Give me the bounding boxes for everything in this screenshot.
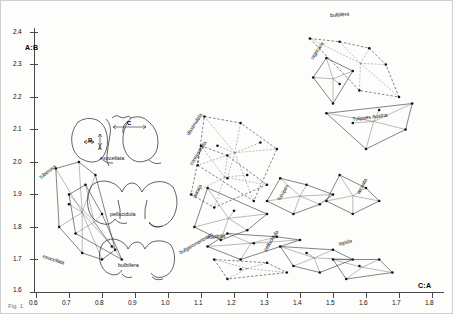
data-point	[292, 265, 295, 268]
data-point	[220, 239, 223, 242]
series-bulgaromanorum	[213, 258, 288, 280]
data-point	[226, 154, 229, 157]
series-spoke	[94, 214, 102, 222]
data-point	[206, 245, 209, 248]
series-tuberosa	[55, 161, 117, 261]
series-spoke	[194, 218, 228, 227]
data-point	[325, 57, 328, 60]
data-point	[391, 271, 394, 274]
data-point	[239, 258, 242, 261]
series-spoke	[353, 121, 374, 123]
data-point	[101, 213, 104, 216]
data-point	[378, 200, 381, 203]
data-point	[332, 102, 335, 105]
data-point	[253, 242, 256, 245]
data-point	[358, 89, 361, 92]
data-point	[319, 271, 322, 274]
data-point	[266, 200, 269, 203]
data-point	[309, 37, 312, 40]
species-polygon	[310, 39, 399, 98]
data-point	[233, 210, 236, 213]
data-point	[345, 278, 348, 281]
data-point	[78, 161, 81, 164]
inset-label-bulbifera: bulbifera	[118, 262, 139, 268]
data-point	[332, 258, 335, 261]
series-spoke	[326, 58, 333, 79]
data-point	[312, 76, 315, 79]
data-point	[338, 83, 341, 86]
species-polygon	[56, 162, 115, 260]
series-spoke	[229, 214, 268, 218]
series-spoke	[366, 121, 374, 149]
data-point	[411, 102, 414, 105]
series-spoke	[201, 146, 225, 177]
series-nigricans	[312, 57, 354, 105]
series-spoke	[247, 263, 267, 269]
species-polygon	[333, 260, 392, 280]
data-point	[239, 268, 242, 271]
series-spoke	[229, 211, 235, 219]
data-point	[332, 193, 335, 196]
data-point	[325, 112, 328, 115]
data-point	[68, 203, 71, 206]
data-point	[279, 177, 282, 180]
data-point	[259, 141, 262, 144]
data-point	[111, 245, 114, 248]
data-point	[216, 145, 219, 148]
data-point	[266, 213, 269, 216]
species-polygon	[326, 104, 412, 150]
data-point	[332, 249, 335, 252]
dim-label-b: B	[88, 137, 92, 143]
data-point	[213, 206, 216, 209]
series-spoke	[353, 196, 379, 201]
scatter-plot-svg	[0, 0, 453, 314]
series-spoke	[300, 196, 320, 204]
series-spoke	[293, 258, 314, 266]
series-spoke	[247, 269, 287, 273]
data-point	[385, 63, 388, 66]
series-spoke	[204, 117, 235, 153]
data-point	[338, 40, 341, 43]
data-point	[404, 128, 407, 131]
series-spoke	[208, 243, 251, 246]
inset-label-exocellata: exocellata	[100, 155, 124, 161]
series-spoke	[307, 253, 315, 258]
inset-label-pellucidula: pellucidula	[110, 211, 135, 217]
data-point	[58, 226, 61, 229]
data-point	[203, 115, 206, 118]
data-point	[68, 193, 71, 196]
data-point	[358, 265, 361, 268]
data-point	[239, 122, 242, 125]
series-spoke	[82, 175, 95, 212]
data-point	[206, 187, 209, 190]
data-point	[352, 70, 355, 73]
data-point	[101, 258, 104, 261]
series-spoke	[229, 218, 248, 230]
data-point	[276, 148, 279, 151]
series-spoke	[361, 63, 400, 97]
data-point	[305, 252, 308, 255]
dim-label-a: A	[98, 145, 102, 151]
data-point	[378, 258, 381, 261]
data-point	[299, 239, 302, 242]
chart-canvas: 2.4 2.3 2.2 2.1 2.0 1.9 1.8 1.7 1.6 A:B …	[0, 0, 453, 314]
series-spoke	[313, 78, 333, 79]
data-point	[84, 184, 87, 187]
data-point	[352, 122, 355, 125]
series-aurata	[193, 187, 268, 242]
series-spoke	[362, 260, 379, 268]
data-point	[378, 109, 381, 112]
data-point	[193, 226, 196, 229]
data-point	[94, 174, 97, 177]
series-spoke	[374, 121, 406, 129]
series-spoke	[361, 63, 386, 64]
series-spoke	[235, 123, 241, 153]
series-spoke	[359, 63, 360, 90]
data-point	[365, 187, 368, 190]
series-spoke	[59, 212, 82, 227]
species-polygon	[198, 117, 277, 202]
data-point	[74, 232, 77, 235]
series-spoke	[314, 250, 333, 258]
data-point	[325, 200, 328, 203]
series-spoke	[218, 146, 235, 153]
